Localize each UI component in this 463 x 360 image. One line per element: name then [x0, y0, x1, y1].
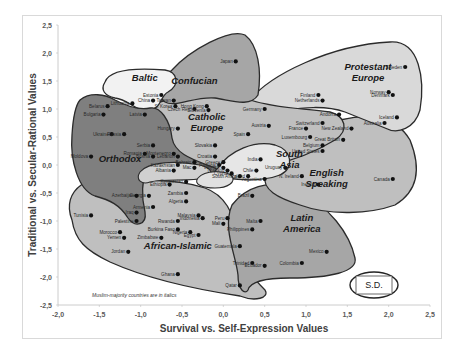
point-label: Qatar: [225, 283, 237, 288]
data-point: [320, 121, 324, 125]
data-point: [176, 163, 180, 167]
point-label: Serbia: [137, 143, 151, 148]
region-label: Baltic: [132, 72, 159, 83]
data-point: [151, 205, 155, 209]
x-tick-label: -1,5: [93, 311, 105, 319]
data-point: [89, 155, 93, 159]
y-tick-label: 2,5: [42, 22, 52, 30]
point-label: Malta: [246, 219, 258, 224]
data-point: [263, 264, 267, 268]
point-label: Ethiopia: [150, 182, 167, 187]
data-point: [196, 233, 200, 237]
y-tick-label: 1,0: [42, 106, 52, 114]
data-point: [176, 155, 180, 159]
x-tick-label: 2,5: [425, 311, 435, 319]
point-label: Yemen: [107, 235, 122, 240]
data-point: [258, 157, 262, 161]
data-point: [391, 177, 395, 181]
point-label: Ghana: [161, 272, 175, 277]
data-point: [176, 127, 180, 131]
region-label: Latin: [291, 212, 314, 223]
data-point: [201, 216, 205, 220]
data-point: [403, 65, 407, 69]
region-label: African-Islamic: [143, 240, 213, 251]
data-point: [337, 113, 341, 117]
data-point: [184, 191, 188, 195]
data-point: [320, 149, 324, 153]
point-label: Palestine: [115, 219, 134, 224]
data-point: [176, 272, 180, 276]
point-label: Taiwan: [156, 98, 171, 103]
point-label: Canada: [374, 177, 391, 182]
data-point: [172, 99, 176, 103]
x-tick-label: -2,0: [52, 311, 64, 319]
y-tick-label: -2,5: [40, 302, 52, 310]
region-label: Asia: [278, 159, 299, 170]
data-point: [151, 99, 155, 103]
point-label: Chile: [243, 168, 254, 173]
data-point: [238, 244, 242, 248]
data-point: [250, 194, 254, 198]
data-point: [213, 143, 217, 147]
data-point: [184, 180, 188, 184]
point-label: Spain: [233, 132, 245, 137]
point-label: Morocco: [99, 230, 117, 235]
data-point: [316, 93, 320, 97]
region-label: English: [310, 167, 345, 178]
point-label: Bulgaria: [84, 112, 101, 117]
data-point: [263, 177, 267, 181]
data-point: [134, 219, 138, 223]
data-point: [225, 216, 229, 220]
point-label: Germany: [243, 107, 263, 112]
point-label: Lithuania: [111, 101, 130, 106]
y-tick-label: 1,5: [42, 78, 52, 86]
data-point: [246, 132, 250, 136]
data-point: [106, 104, 110, 108]
data-point: [122, 132, 126, 136]
point-label: Mexico: [309, 249, 324, 254]
point-label: Philippines: [227, 227, 250, 232]
point-label: Colombia: [279, 261, 299, 266]
data-point: [126, 250, 130, 254]
point-label: Hungary: [157, 126, 175, 131]
point-label: Estonia: [143, 93, 159, 98]
point-label: Iraq: [126, 210, 134, 215]
point-label: Indonesia: [180, 216, 200, 221]
region-label: America: [282, 223, 321, 234]
point-label: Netherlands: [295, 98, 320, 103]
region-label: Orthodox: [99, 153, 142, 164]
region-label: Europe: [352, 72, 385, 83]
point-label: Egypt: [184, 233, 196, 238]
point-label: Rwanda: [158, 219, 175, 224]
point-label: Lebanon: [157, 154, 175, 159]
data-point: [184, 199, 188, 203]
region-label: Speaking: [306, 178, 348, 189]
point-label: Finland: [300, 93, 316, 98]
y-tick-label: 0,5: [42, 134, 52, 142]
data-point: [151, 155, 155, 159]
data-point: [382, 121, 386, 125]
x-tick-label: -0,5: [176, 311, 188, 319]
point-label: Albania: [155, 168, 171, 173]
point-label: South Africa: [212, 174, 237, 179]
data-point: [320, 143, 324, 147]
point-label: Belarus: [89, 104, 105, 109]
data-point: [172, 169, 176, 173]
point-label: Armenia: [133, 205, 151, 210]
data-point: [134, 194, 138, 198]
data-point: [122, 236, 126, 240]
data-point: [234, 59, 238, 63]
data-point: [246, 174, 250, 178]
data-point: [192, 160, 196, 164]
point-label: Tunisia: [73, 213, 88, 218]
data-point: [143, 113, 147, 117]
data-point: [147, 194, 151, 198]
y-tick-label: -1,5: [40, 246, 52, 254]
point-label: Latvia: [130, 112, 143, 117]
x-tick-label: -1,0: [135, 311, 147, 319]
point-label: Azerbaijan: [112, 193, 134, 198]
data-point: [89, 213, 93, 217]
point-label: China: [138, 98, 150, 103]
data-point: [151, 143, 155, 147]
data-point: [213, 155, 217, 159]
